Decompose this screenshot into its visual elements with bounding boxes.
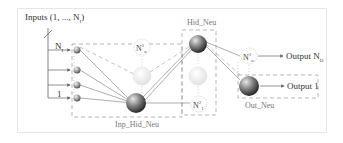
inp-hid-node-sphere <box>126 93 146 113</box>
input-bottom-label: 1 <box>57 90 62 99</box>
output-1-label: Output 1 <box>287 82 319 91</box>
input-node <box>74 82 81 89</box>
ghost-node <box>189 67 207 85</box>
input-node-1 <box>74 95 81 102</box>
out-node-sphere <box>239 76 259 96</box>
input-bus <box>44 28 70 98</box>
hid-node-sphere <box>189 35 207 53</box>
node-n1o-label: N1o <box>243 52 254 63</box>
inputs-label: Inputs (1, ..., NI) <box>25 13 84 24</box>
input-node <box>74 67 81 74</box>
ghost-node <box>133 67 151 85</box>
node-n21-label: N21 <box>193 100 204 111</box>
output-n-label: Output NO <box>286 52 323 63</box>
input-node-n <box>74 47 81 54</box>
inp-hid-layer-label: Inp_Hid_Neu <box>115 121 159 129</box>
hid-layer-label: Hid_Neu <box>187 19 216 27</box>
node-n1a-label: N1a <box>136 43 147 54</box>
input-top-label: NI <box>55 42 63 53</box>
out-layer-label: Out_Neu <box>245 102 274 110</box>
